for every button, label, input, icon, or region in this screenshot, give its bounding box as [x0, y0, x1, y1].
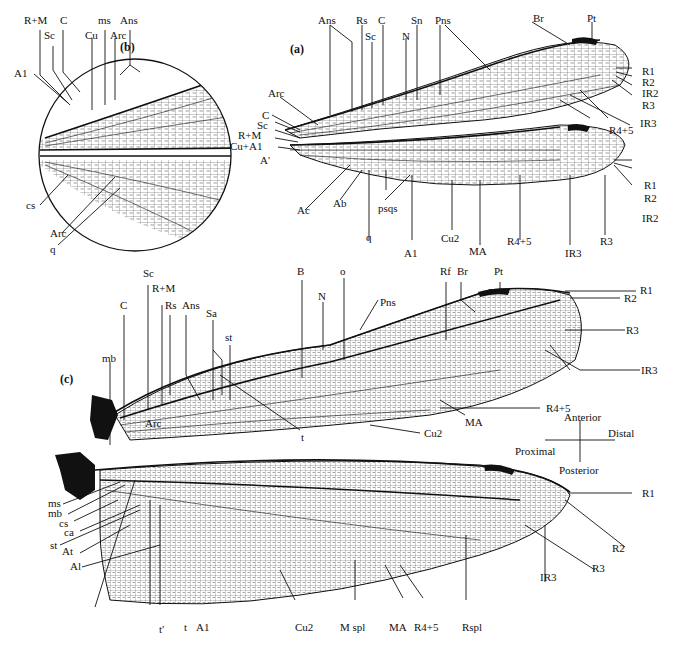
label-distal: Distal	[608, 428, 634, 439]
label-a-q: q	[366, 232, 372, 243]
label-b-q: q	[50, 244, 56, 255]
label-c-hr45: R4+5	[414, 622, 439, 633]
label-c-r1: R1	[640, 285, 653, 296]
label-c-mspl: M spl	[340, 622, 365, 633]
label-a-ma: MA	[469, 246, 487, 257]
label-c-rs: Rs	[165, 300, 177, 311]
label-c-hcu2: Cu2	[295, 622, 313, 633]
label-c-r3: R3	[626, 325, 639, 336]
label-c-br: Br	[457, 266, 468, 277]
label-anterior: Anterior	[564, 412, 601, 423]
label-c-cu2: Cu2	[424, 428, 442, 439]
label-a-psqs: psqs	[378, 203, 398, 214]
label-a-pt: Pt	[587, 13, 596, 24]
label-c-rm: R+M	[152, 283, 175, 294]
label-a-a1: A1	[404, 248, 417, 259]
label-c-rf: Rf	[440, 266, 451, 277]
label-a-n: N	[402, 31, 410, 42]
label-proximal: Proximal	[515, 446, 555, 457]
label-c-pns: Pns	[380, 297, 396, 308]
label-b-ms: ms	[98, 15, 111, 26]
wing-venation-figure: (b) (a) (c) R+M C Sc A1 Cu ms Arc Ans cs…	[0, 0, 676, 645]
label-c-at: At	[62, 546, 73, 557]
label-a-ans: Ans	[318, 15, 336, 26]
label-b-cs: cs	[26, 200, 35, 211]
label-c-a1: A1	[196, 622, 209, 633]
label-c-t: t	[301, 432, 304, 443]
label-a-pns: Pns	[435, 15, 451, 26]
panel-label-b: (b)	[120, 40, 135, 55]
label-b-c: C	[60, 15, 67, 26]
label-c-ma: MA	[465, 417, 483, 428]
label-c-sc: Sc	[143, 268, 154, 279]
label-a-sc: Sc	[365, 31, 376, 42]
label-c-hma: MA	[389, 622, 407, 633]
label-c-al: Al	[70, 561, 81, 572]
label-c-sa: Sa	[206, 308, 217, 319]
panel-label-c: (c)	[60, 372, 73, 387]
label-c-st2: st	[50, 540, 57, 551]
label-a-sn: Sn	[411, 15, 423, 26]
label-b-a1: A1	[14, 68, 27, 79]
label-c-pt: Pt	[494, 266, 503, 277]
label-c-ir3: IR3	[641, 365, 658, 376]
label-c-hir3: IR3	[540, 572, 557, 583]
label-a-ir2: IR2	[642, 88, 659, 99]
label-b-sc: Sc	[44, 30, 55, 41]
label-c-tprime: t′	[159, 624, 164, 635]
label-c-c: C	[120, 300, 127, 311]
label-a-ir3: IR3	[640, 118, 657, 129]
label-a-ab: Ab	[333, 198, 346, 209]
panel-a-forewing	[285, 37, 629, 138]
label-a-hr2: R2	[644, 193, 657, 204]
label-a-rs: Rs	[356, 15, 368, 26]
label-posterior: Posterior	[559, 465, 599, 476]
panel-c-forewing	[90, 288, 581, 440]
label-c-ans: Ans	[182, 300, 200, 311]
label-c-hr3: R3	[592, 563, 605, 574]
label-a-hir2: IR2	[642, 213, 659, 224]
label-c-rspl: Rspl	[462, 622, 482, 633]
label-b-ans: Ans	[120, 15, 138, 26]
label-a-c: C	[378, 15, 385, 26]
label-c-st: st	[225, 332, 232, 343]
label-c-arc: Arc	[145, 418, 162, 429]
label-b-cu: Cu	[85, 30, 98, 41]
label-a-aprime: A'	[260, 155, 270, 166]
label-b-rm: R+M	[24, 15, 47, 26]
panel-label-a: (a)	[290, 42, 304, 57]
label-a-arc: Arc	[268, 88, 285, 99]
label-b-arc2: Arc	[50, 228, 67, 239]
label-c-t2: t	[184, 622, 187, 633]
orientation-cross	[545, 420, 615, 462]
label-a-cu2: Cu2	[441, 233, 459, 244]
label-a-r3: R3	[642, 100, 655, 111]
label-c-mb: mb	[102, 353, 116, 364]
label-a-hir3: IR3	[565, 248, 582, 259]
label-a-hr3: R3	[600, 236, 613, 247]
label-a-hr1: R1	[644, 180, 657, 191]
label-a-cua1: Cu+A1	[230, 141, 262, 152]
label-a-hr45: R4+5	[507, 236, 532, 247]
venation-drawing	[0, 0, 676, 645]
label-a-r45: R4+5	[609, 125, 634, 136]
label-c-b: B	[297, 266, 304, 277]
label-c-hr1: R1	[642, 488, 655, 499]
panel-b-drawing	[39, 59, 240, 251]
label-b-arc: Arc	[110, 30, 127, 41]
label-c-o: o	[340, 266, 346, 277]
label-c-n: N	[318, 291, 326, 302]
label-c-hr2: R2	[612, 543, 625, 554]
panel-c-hindwing	[55, 452, 570, 604]
label-c-r2: R2	[624, 293, 637, 304]
label-a-br: Br	[533, 13, 544, 24]
label-c-ca: ca	[64, 527, 74, 538]
label-a-ac: Ac	[297, 205, 310, 216]
